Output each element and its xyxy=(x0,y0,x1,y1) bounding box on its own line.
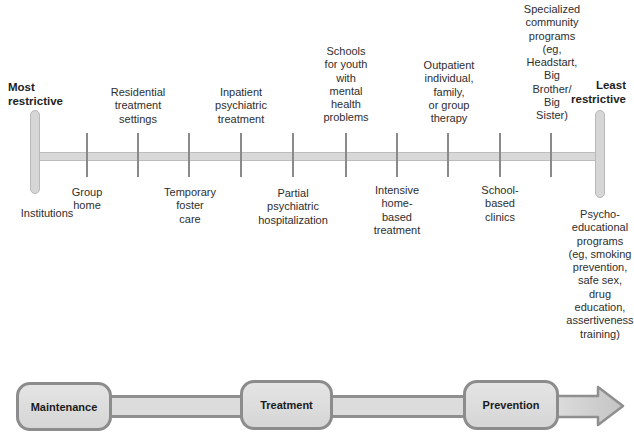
label-line: health xyxy=(323,98,368,111)
label-line: School- xyxy=(481,184,518,197)
tick-outpatient xyxy=(447,133,449,177)
label-line: treatment xyxy=(111,99,165,112)
label-group-home: Group home xyxy=(72,186,103,213)
connector-maintenance-treatment xyxy=(105,395,245,418)
label-line: settings xyxy=(111,113,165,126)
label-line: with xyxy=(323,72,368,85)
label-line: assertiveness xyxy=(566,314,633,327)
label-line: education, xyxy=(566,301,633,314)
label-line: Partial xyxy=(258,187,328,200)
label-line: hospitalization xyxy=(258,214,328,227)
stage-maintenance-label: Maintenance xyxy=(31,401,98,413)
tick-partial-hospitalization xyxy=(292,133,294,177)
label-line: (eg, xyxy=(524,43,580,56)
tick-schools xyxy=(345,133,347,177)
stage-prevention: Prevention xyxy=(463,380,559,430)
label-partial-hospitalization: Partial psychiatric hospitalization xyxy=(258,187,328,227)
label-line: based xyxy=(374,211,420,224)
label-line: home- xyxy=(374,197,420,210)
label-line: individual, xyxy=(424,72,475,85)
label-schools-for-youth: Schools for youth with mental health pro… xyxy=(323,45,368,125)
label-psychoeducational-programs: Psycho- educational programs (eg, smokin… xyxy=(566,208,633,341)
stage-treatment: Treatment xyxy=(240,380,333,430)
label-line: educational xyxy=(566,221,633,234)
continuum-bar xyxy=(40,152,597,161)
label-line: community xyxy=(524,16,580,29)
tick-school-clinics xyxy=(499,133,501,177)
label-line: Sister) xyxy=(524,109,580,122)
label-line: drug xyxy=(566,288,633,301)
label-line: therapy xyxy=(424,112,475,125)
tick-residential xyxy=(137,133,139,177)
label-line: Psycho- xyxy=(566,208,633,221)
most-restrictive-line2: restrictive xyxy=(8,94,63,108)
label-line: Schools xyxy=(323,45,368,58)
left-end-pole xyxy=(30,110,40,194)
label-line: Big xyxy=(524,69,580,82)
arrow-right-icon xyxy=(556,385,626,429)
tick-group-home xyxy=(86,133,88,177)
label-line: home xyxy=(72,199,103,212)
label-line: problems xyxy=(323,111,368,124)
label-line: treatment xyxy=(215,113,267,126)
label-line: foster xyxy=(164,199,216,212)
right-end-pole xyxy=(595,110,605,198)
stage-maintenance: Maintenance xyxy=(16,382,112,431)
label-inpatient-psychiatric: Inpatient psychiatric treatment xyxy=(215,86,267,126)
most-restrictive-label: Most restrictive xyxy=(8,80,63,108)
label-institutions: Institutions xyxy=(21,207,74,220)
label-line: based xyxy=(481,197,518,210)
label-line: Group xyxy=(72,186,103,199)
tick-community-programs xyxy=(550,133,552,177)
label-line: (eg, smoking xyxy=(566,248,633,261)
label-line: Temporary xyxy=(164,186,216,199)
label-school-based-clinics: School- based clinics xyxy=(481,184,518,224)
label-line: Inpatient xyxy=(215,86,267,99)
label-line: care xyxy=(164,213,216,226)
label-line: Specialized xyxy=(524,3,580,16)
connector-treatment-prevention xyxy=(328,395,468,418)
label-line: programs xyxy=(524,30,580,43)
label-temporary-foster-care: Temporary foster care xyxy=(164,186,216,226)
label-line: treatment xyxy=(374,224,420,237)
label-line: Residential xyxy=(111,86,165,99)
label-line: Outpatient xyxy=(424,59,475,72)
label-outpatient-therapy: Outpatient individual, family, or group … xyxy=(424,59,475,125)
label-line: mental xyxy=(323,85,368,98)
label-line: prevention, xyxy=(566,261,633,274)
label-intensive-home-based: Intensive home- based treatment xyxy=(374,184,420,237)
label-line: family, xyxy=(424,86,475,99)
label-line: Institutions xyxy=(21,207,74,220)
label-line: or group xyxy=(424,99,475,112)
label-line: psychiatric xyxy=(215,99,267,112)
label-line: Intensive xyxy=(374,184,420,197)
label-line: training) xyxy=(566,328,633,341)
label-line: for youth xyxy=(323,58,368,71)
label-line: Headstart, xyxy=(524,56,580,69)
label-line: psychiatric xyxy=(258,200,328,213)
label-residential-treatment: Residential treatment settings xyxy=(111,86,165,126)
label-line: Brother/ xyxy=(524,83,580,96)
label-line: Big xyxy=(524,96,580,109)
stage-treatment-label: Treatment xyxy=(260,399,313,411)
stage-prevention-label: Prevention xyxy=(483,399,540,411)
label-line: safe sex, xyxy=(566,274,633,287)
most-restrictive-line1: Most xyxy=(8,80,63,94)
tick-intensive-home xyxy=(396,133,398,177)
tick-foster-care xyxy=(188,133,190,177)
label-line: programs xyxy=(566,235,633,248)
tick-inpatient xyxy=(240,133,242,177)
label-line: clinics xyxy=(481,211,518,224)
label-specialized-community-programs: Specialized community programs (eg, Head… xyxy=(524,3,580,123)
